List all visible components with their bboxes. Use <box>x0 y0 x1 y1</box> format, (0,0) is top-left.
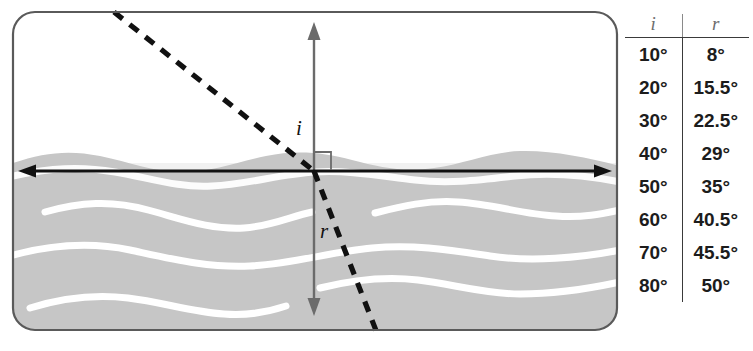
angle-data-table: i r 10° 8° 20° 15.5° 30° 22.5° 40° <box>620 0 753 351</box>
cell-incidence: 50° <box>625 170 682 203</box>
cell-refraction: 45.5° <box>682 236 749 269</box>
cell-incidence: 70° <box>625 236 682 269</box>
table-row: 10° 8° <box>625 38 749 72</box>
cell-incidence: 60° <box>625 203 682 236</box>
cell-incidence: 20° <box>625 71 682 104</box>
cell-refraction: 15.5° <box>682 71 749 104</box>
cell-refraction: 8° <box>682 38 749 72</box>
table-header-row: i r <box>625 14 749 38</box>
table-row: 80° 50° <box>625 269 749 302</box>
table-row: 50° 35° <box>625 170 749 203</box>
table-row: 30° 22.5° <box>625 104 749 137</box>
cell-incidence: 40° <box>625 137 682 170</box>
table-row: 40° 29° <box>625 137 749 170</box>
refraction-diagram: i r <box>0 0 625 351</box>
table-header-i: i <box>625 14 682 38</box>
cell-incidence: 30° <box>625 104 682 137</box>
incident-angle-label: i <box>296 116 302 140</box>
refracted-angle-label: r <box>320 219 329 243</box>
cell-refraction: 50° <box>682 269 749 302</box>
table-header-r: r <box>682 14 749 38</box>
refraction-table: i r 10° 8° 20° 15.5° 30° 22.5° 40° <box>625 14 749 302</box>
cell-refraction: 22.5° <box>682 104 749 137</box>
refraction-diagram-svg: i r <box>0 0 625 351</box>
figure-root: i r i r 10° 8° <box>0 0 753 351</box>
cell-refraction: 29° <box>682 137 749 170</box>
table-row: 60° 40.5° <box>625 203 749 236</box>
cell-refraction: 40.5° <box>682 203 749 236</box>
table-row: 70° 45.5° <box>625 236 749 269</box>
cell-incidence: 80° <box>625 269 682 302</box>
table-row: 20° 15.5° <box>625 71 749 104</box>
cell-refraction: 35° <box>682 170 749 203</box>
cell-incidence: 10° <box>625 38 682 72</box>
